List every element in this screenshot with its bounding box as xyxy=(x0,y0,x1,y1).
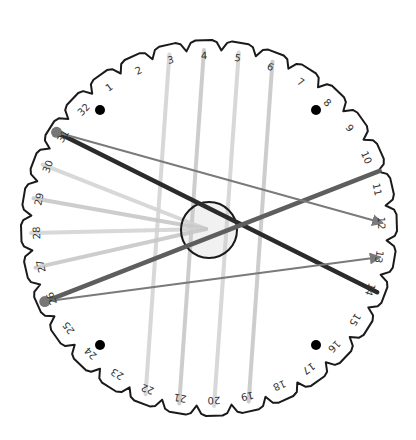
slot-label-20: 20 xyxy=(207,395,220,406)
slot-label-13: 13 xyxy=(373,250,386,264)
slot-label-29: 29 xyxy=(32,192,45,206)
orientation-dot-1 xyxy=(95,105,105,115)
slot-label-12: 12 xyxy=(376,217,387,230)
kumihimo-disk-diagram: 1234567891011121314151617181920212223242… xyxy=(0,0,416,440)
slot-label-21: 21 xyxy=(173,392,187,405)
orientation-dot-3 xyxy=(95,340,105,350)
orientation-dot-4 xyxy=(311,340,321,350)
disk-canvas: 1234567891011121314151617181920212223242… xyxy=(0,0,416,440)
slot-label-28: 28 xyxy=(31,226,42,239)
orientation-dot-2 xyxy=(311,105,321,115)
slot-label-4: 4 xyxy=(201,50,208,61)
